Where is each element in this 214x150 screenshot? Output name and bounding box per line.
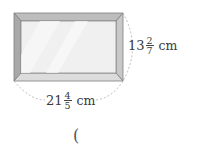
width-denominator: 5: [65, 101, 71, 110]
height-unit: cm: [159, 38, 178, 53]
width-whole: 21: [46, 93, 63, 108]
width-dimension-arc-left: [14, 81, 45, 100]
width-unit: cm: [77, 93, 96, 108]
frame-right: [116, 13, 123, 81]
height-fraction: 2 7: [146, 36, 154, 55]
height-denominator: 7: [147, 46, 153, 55]
height-label: 13 2 7 cm: [128, 36, 177, 55]
mirror-figure: [0, 0, 214, 150]
frame-bottom: [14, 73, 123, 81]
height-whole: 13: [128, 38, 145, 53]
width-label: 21 4 5 cm: [46, 91, 95, 110]
width-dimension-arc-right: [96, 81, 123, 100]
answer-paren: (: [73, 126, 79, 145]
frame-top: [14, 13, 123, 21]
frame-left: [14, 13, 21, 81]
width-fraction: 4 5: [64, 91, 72, 110]
